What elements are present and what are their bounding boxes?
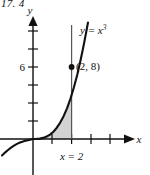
- x-axis-arrow-icon: [124, 134, 135, 143]
- cubic-function-plot: y x 6 y = x3 (2, 8) x = 2: [0, 0, 150, 175]
- y-axis-arrow-icon: [28, 16, 37, 26]
- curve-label: y = x3: [79, 23, 107, 37]
- curve-y-equals-x-cubed: [2, 23, 88, 156]
- figure-container: 17. 4: [0, 0, 150, 175]
- curve-label-text: y = x: [79, 24, 103, 36]
- point-marker-2-8: [69, 64, 75, 70]
- vertical-line-label: x = 2: [59, 150, 84, 162]
- y-tick-label-6: 6: [20, 61, 26, 73]
- point-label: (2, 8): [76, 60, 100, 73]
- y-axis-label: y: [27, 4, 33, 16]
- curve-label-exponent: 3: [102, 23, 107, 32]
- x-axis-label: x: [136, 133, 142, 145]
